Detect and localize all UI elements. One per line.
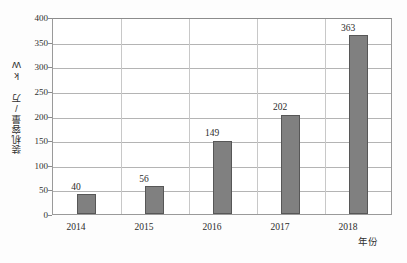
y-axis-ticks: 400 350 300 250 200 150 100 50 0 [0,0,48,263]
gridline-horizontal [53,93,391,94]
bar-2014 [77,194,96,214]
y-tick-label: 100 [22,162,48,171]
gridline-vertical [121,19,122,214]
bar-value-2015: 56 [122,174,166,184]
bar-2016 [213,141,232,214]
bar-value-2014: 40 [54,182,98,192]
figure-caption [0,255,407,263]
bar-2015 [145,186,164,214]
y-tick-label: 300 [22,63,48,72]
bar-value-2017: 202 [258,102,302,112]
gridline-horizontal [53,118,391,119]
bar-2017 [281,115,300,215]
y-tick-label: 150 [22,137,48,146]
bar-value-2016: 149 [190,128,234,138]
x-tick-label-2014: 2014 [46,222,106,233]
bar-2018 [349,35,368,214]
y-tick-label: 0 [22,211,48,220]
y-tick-label: 200 [22,113,48,122]
y-tick-label: 250 [22,88,48,97]
x-tick-label-2016: 2016 [182,222,242,233]
gridline-vertical [325,19,326,214]
x-tick-label-2017: 2017 [250,222,310,233]
gridline-vertical [189,19,190,214]
bar-chart: 装机容量/万 kW 400 350 300 250 200 150 100 50… [0,0,407,263]
x-tick-label-2018: 2018 [318,222,378,233]
gridline-horizontal [53,44,391,45]
x-axis-title: 年份 [358,236,378,247]
bar-value-2018: 363 [326,23,370,33]
y-tick-label: 50 [22,186,48,195]
y-tick-mark [48,215,52,216]
gridline-horizontal [53,68,391,69]
gridline-vertical [257,19,258,214]
plot-area [52,18,392,215]
y-tick-label: 350 [22,39,48,48]
y-tick-label: 400 [22,14,48,23]
x-tick-label-2015: 2015 [114,222,174,233]
